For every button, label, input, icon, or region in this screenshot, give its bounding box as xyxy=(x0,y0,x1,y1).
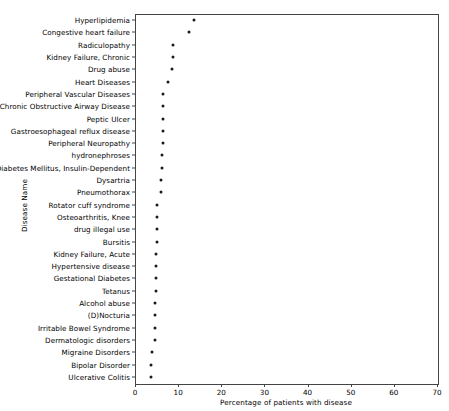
data-point xyxy=(167,80,170,83)
data-point xyxy=(150,351,153,354)
data-point xyxy=(160,179,163,182)
y-axis-tick-label: Diabetes Mellitus, Insulin-Dependent xyxy=(0,163,130,172)
x-axis-tick xyxy=(264,384,265,387)
y-axis-tick-label: Alcohol abuse xyxy=(79,299,130,308)
data-point xyxy=(156,215,159,218)
y-axis-tick-label: Peripheral Vascular Diseases xyxy=(25,89,130,98)
y-axis-tick-label: Rotator cuff syndrome xyxy=(49,200,130,209)
data-point xyxy=(162,129,165,132)
y-axis-tick-label: Congestive heart failure xyxy=(42,28,130,37)
y-axis-tick xyxy=(132,57,135,58)
y-axis-tick-label: Ulcerative Colitis xyxy=(68,372,130,381)
y-axis-tick-label: Kidney Failure, Chronic xyxy=(47,53,130,62)
data-point xyxy=(154,289,157,292)
y-axis-tick xyxy=(132,81,135,82)
x-axis-tick-label: 60 xyxy=(389,388,398,397)
plot-area xyxy=(135,14,439,385)
x-axis-tick xyxy=(351,384,352,387)
y-axis-tick xyxy=(132,167,135,168)
y-axis-tick xyxy=(132,44,135,45)
y-axis-tick xyxy=(132,266,135,267)
y-axis-tick xyxy=(132,253,135,254)
y-axis-tick xyxy=(132,180,135,181)
data-point xyxy=(156,228,159,231)
y-axis-tick xyxy=(132,303,135,304)
x-axis-tick xyxy=(394,384,395,387)
y-axis-title: Disease Name xyxy=(16,0,32,411)
x-axis-title: Percentage of patients with disease xyxy=(135,398,437,407)
y-axis-tick xyxy=(132,278,135,279)
y-axis-tick xyxy=(132,327,135,328)
data-point xyxy=(161,154,164,157)
y-axis-tick-label: Kidney Failure, Acute xyxy=(53,249,130,258)
y-axis-tick-label: Peptic Ulcer xyxy=(87,114,130,123)
x-axis-tick xyxy=(308,384,309,387)
y-axis-tick xyxy=(132,118,135,119)
data-point xyxy=(153,326,156,329)
y-axis-tick-label: Bipolar Disorder xyxy=(71,360,130,369)
y-axis-tick xyxy=(132,376,135,377)
y-axis-tick-label: Chronic Obstructive Airway Disease xyxy=(0,102,130,111)
y-axis-tick-label: Pneumothorax xyxy=(77,188,130,197)
x-axis-tick xyxy=(178,384,179,387)
y-axis-tick xyxy=(132,32,135,33)
x-axis-tick-label: 20 xyxy=(217,388,226,397)
data-point xyxy=(162,105,165,108)
data-point xyxy=(171,56,174,59)
x-axis-tick xyxy=(135,384,136,387)
data-point xyxy=(193,19,196,22)
y-axis-tick xyxy=(132,155,135,156)
y-axis-tick-label: Bursitis xyxy=(103,237,130,246)
y-axis-tick xyxy=(132,364,135,365)
y-axis-tick-label: Radiculopathy xyxy=(78,40,130,49)
y-axis-tick-label: Osteoarthritis, Knee xyxy=(57,212,130,221)
y-axis-tick-label: (D)Nocturia xyxy=(88,311,130,320)
y-axis-tick xyxy=(132,290,135,291)
data-point xyxy=(187,31,190,34)
data-point xyxy=(160,166,163,169)
y-axis-tick xyxy=(132,229,135,230)
scatter-chart-figure: Disease Name HyperlipidemiaCongestive he… xyxy=(0,0,449,411)
y-axis-tick xyxy=(132,192,135,193)
y-axis-tick xyxy=(132,204,135,205)
data-point xyxy=(156,203,159,206)
data-point xyxy=(154,314,157,317)
x-axis-tick-label: 0 xyxy=(133,388,138,397)
data-point xyxy=(171,68,174,71)
x-axis-tick xyxy=(437,384,438,387)
data-point xyxy=(150,363,153,366)
y-axis-tick-label: Gastroesophageal reflux disease xyxy=(11,126,130,135)
y-axis-tick-label: hydronephroses xyxy=(72,151,130,160)
x-axis-tick-label: 10 xyxy=(174,388,183,397)
y-axis-tick xyxy=(132,93,135,94)
y-axis-tick-label: Gestational Diabetes xyxy=(54,274,130,283)
data-point xyxy=(154,277,157,280)
data-point xyxy=(149,375,152,378)
x-axis-tick-label: 50 xyxy=(346,388,355,397)
data-point xyxy=(155,252,158,255)
y-axis-tick-label: Migraine Disorders xyxy=(62,348,130,357)
y-axis-tick xyxy=(132,106,135,107)
y-axis-tick xyxy=(132,143,135,144)
data-point xyxy=(161,142,164,145)
y-axis-tick-label: Tetanus xyxy=(102,286,130,295)
y-axis-tick-label: Hypertensive disease xyxy=(52,262,130,271)
y-axis-tick xyxy=(132,130,135,131)
y-axis-tick-label: Drug abuse xyxy=(88,65,130,74)
data-point xyxy=(171,43,174,46)
y-axis-tick-label: Hyperlipidemia xyxy=(75,16,130,25)
data-point xyxy=(159,191,162,194)
data-point xyxy=(153,338,156,341)
y-axis-tick xyxy=(132,339,135,340)
data-point xyxy=(154,302,157,305)
data-point xyxy=(155,265,158,268)
y-axis-tick-label: Dermatologic disorders xyxy=(45,335,130,344)
data-point xyxy=(156,240,159,243)
y-axis-tick xyxy=(132,315,135,316)
y-axis-tick xyxy=(132,69,135,70)
y-axis-tick-label: Irritable Bowel Syndrome xyxy=(38,323,130,332)
x-axis-tick-label: 70 xyxy=(432,388,441,397)
y-axis-tick-label: Dysartria xyxy=(96,176,130,185)
y-axis-tick xyxy=(132,352,135,353)
y-axis-tick xyxy=(132,241,135,242)
